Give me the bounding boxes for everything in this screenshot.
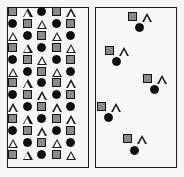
circle-shape-r2c4: [52, 19, 62, 29]
square-shape-r7c4: [52, 78, 62, 88]
square-glyph: [23, 90, 32, 99]
triangle-shape-r13c2: [23, 150, 33, 160]
square-shape-r2c5: [66, 19, 76, 29]
circle-glyph: [37, 78, 46, 87]
triangle-shape-r7c2: [23, 78, 33, 88]
circle-shape-r8c4: [52, 90, 62, 100]
triangle-shape-r12c4: [52, 138, 62, 148]
square-glyph: [66, 55, 75, 64]
triangle-shape-r8c3: [37, 90, 47, 100]
triangle-glyph: [8, 32, 18, 41]
triangle-shape-r9c1: [8, 102, 18, 112]
triangle-glyph: [66, 8, 76, 17]
circle-glyph: [150, 85, 159, 94]
square-shape-r11c2: [23, 126, 33, 136]
circle-shape-r12c5: [66, 138, 76, 148]
square-shape-r13c4: [52, 150, 62, 160]
square-glyph: [128, 12, 137, 21]
circle-glyph: [66, 102, 75, 111]
triangle-glyph: [8, 139, 18, 148]
circle-shape-r9c2: [23, 102, 33, 112]
circle-shape-r5c1: [8, 55, 18, 65]
square-glyph: [66, 126, 75, 135]
circle-glyph: [37, 150, 46, 159]
triangle-shape-cluster4: [111, 102, 121, 112]
triangle-glyph: [37, 56, 47, 65]
square-shape-r3c3: [37, 31, 47, 41]
square-glyph: [37, 102, 46, 111]
square-glyph: [97, 102, 106, 111]
circle-glyph: [52, 126, 61, 135]
circle-glyph: [23, 67, 32, 76]
circle-shape-r11c4: [52, 126, 62, 136]
square-glyph: [8, 150, 17, 159]
circle-shape-r12c2: [23, 138, 33, 148]
triangle-shape-r13c5: [66, 150, 76, 160]
square-glyph: [8, 114, 17, 123]
square-shape-r12c3: [37, 138, 47, 148]
triangle-shape-r6c4: [52, 67, 62, 77]
square-glyph: [23, 55, 32, 64]
square-glyph: [123, 134, 132, 143]
square-glyph: [52, 114, 61, 123]
square-glyph: [37, 31, 46, 40]
circle-glyph: [104, 113, 113, 122]
circle-shape-cluster3: [150, 85, 160, 95]
circle-glyph: [135, 23, 144, 32]
circle-glyph: [52, 19, 61, 28]
circle-shape-r10c3: [37, 114, 47, 124]
circle-glyph: [8, 55, 17, 64]
triangle-glyph: [37, 20, 47, 29]
square-shape-r10c4: [52, 114, 62, 124]
triangle-shape-r2c3: [37, 19, 47, 29]
circle-shape-r5c4: [52, 55, 62, 65]
triangle-glyph: [37, 127, 47, 136]
square-glyph: [23, 19, 32, 28]
circle-glyph: [23, 102, 32, 111]
square-shape-r7c1: [8, 78, 18, 88]
circle-glyph: [130, 146, 139, 155]
circle-glyph: [66, 67, 75, 76]
triangle-glyph: [23, 44, 33, 53]
circle-glyph: [52, 90, 61, 99]
triangle-shape-cluster3: [157, 74, 167, 84]
triangle-glyph: [52, 139, 62, 148]
square-shape-r10c1: [8, 114, 18, 124]
triangle-glyph: [23, 79, 33, 88]
circle-shape-r6c2: [23, 67, 33, 77]
circle-glyph: [23, 138, 32, 147]
circle-shape-r7c3: [37, 78, 47, 88]
circle-glyph: [66, 31, 75, 40]
triangle-shape-r10c2: [23, 114, 33, 124]
circle-shape-r3c2: [23, 31, 33, 41]
square-shape-cluster2: [105, 46, 115, 56]
circle-glyph: [112, 57, 121, 66]
square-glyph: [52, 43, 61, 52]
circle-shape-r6c5: [66, 67, 76, 77]
square-glyph: [105, 46, 114, 55]
triangle-glyph: [142, 13, 152, 22]
square-shape-r4c1: [8, 43, 18, 53]
triangle-shape-r12c1: [8, 138, 18, 148]
square-glyph: [37, 138, 46, 147]
triangle-shape-r7c5: [66, 78, 76, 88]
circle-shape-cluster1: [135, 23, 145, 33]
circle-shape-r3c5: [66, 31, 76, 41]
circle-glyph: [66, 138, 75, 147]
square-shape-r9c3: [37, 102, 47, 112]
square-glyph: [66, 90, 75, 99]
square-shape-cluster4: [97, 102, 107, 112]
triangle-glyph: [8, 103, 18, 112]
square-shape-cluster5: [123, 134, 133, 144]
triangle-shape-r4c5: [66, 43, 76, 53]
triangle-shape-r3c4: [52, 31, 62, 41]
circle-glyph: [52, 55, 61, 64]
triangle-glyph: [37, 91, 47, 100]
square-glyph: [37, 67, 46, 76]
triangle-shape-r5c3: [37, 55, 47, 65]
triangle-shape-r11c3: [37, 126, 47, 136]
square-glyph: [66, 19, 75, 28]
triangle-glyph: [23, 151, 33, 160]
square-shape-cluster3: [143, 74, 153, 84]
triangle-glyph: [52, 103, 62, 112]
